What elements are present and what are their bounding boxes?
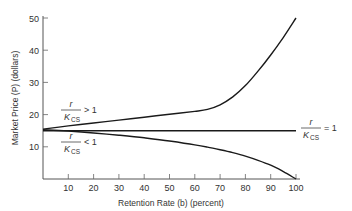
x-tick-label: 80 — [240, 183, 250, 193]
svg-text:CS: CS — [310, 134, 320, 141]
annotation-lower: r K CS < 1 — [61, 131, 97, 155]
y-tick-label: 10 — [29, 142, 39, 152]
line-r-over-k-less — [43, 130, 296, 179]
x-tick-label: 10 — [63, 183, 73, 193]
x-tick-label: 70 — [215, 183, 225, 193]
series-lines — [43, 18, 296, 179]
annotation-flat: r K CS = 1 — [301, 117, 337, 141]
x-axis-title: Retention Rate (b) (percent) — [118, 198, 224, 208]
x-tick-label: 30 — [114, 183, 124, 193]
x-ticks: 102030405060708090100 — [63, 174, 303, 193]
svg-text:< 1: < 1 — [84, 137, 97, 147]
svg-text:> 1: > 1 — [84, 105, 97, 115]
x-tick-label: 90 — [266, 183, 276, 193]
y-tick-label: 30 — [29, 78, 39, 88]
svg-text:CS: CS — [71, 148, 81, 155]
svg-text:r: r — [310, 117, 314, 127]
y-tick-label: 20 — [29, 110, 39, 120]
svg-text:= 1: = 1 — [324, 123, 337, 133]
y-tick-label: 50 — [29, 14, 39, 24]
svg-text:K: K — [64, 112, 71, 122]
svg-text:r: r — [70, 99, 74, 109]
annotation-upper: r K CS > 1 — [61, 99, 97, 123]
x-tick-label: 40 — [139, 183, 149, 193]
axes — [43, 16, 300, 179]
x-tick-label: 100 — [288, 183, 303, 193]
line-r-over-k-greater — [43, 18, 296, 129]
x-tick-label: 20 — [89, 183, 99, 193]
svg-text:K: K — [64, 144, 71, 154]
svg-text:K: K — [303, 130, 310, 140]
svg-text:r: r — [70, 131, 74, 141]
y-tick-label: 40 — [29, 46, 39, 56]
y-ticks: 1020304050 — [29, 14, 48, 153]
chart: 1020304050 102030405060708090100 Retenti… — [0, 0, 352, 211]
x-tick-label: 50 — [164, 183, 174, 193]
svg-text:CS: CS — [71, 116, 81, 123]
x-tick-label: 60 — [190, 183, 200, 193]
y-axis-title: Market Price (P) (dollars) — [10, 51, 20, 146]
